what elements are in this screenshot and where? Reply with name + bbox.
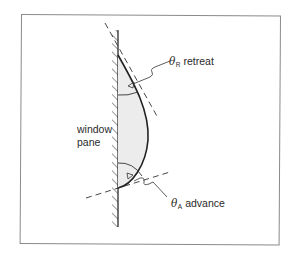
advance-text: advance: [185, 197, 225, 209]
retreat-text: retreat: [184, 55, 214, 67]
theta-retreat-label: θRretreat: [169, 56, 214, 67]
advance-subscript: A: [178, 203, 182, 210]
window-label-line1: window: [77, 124, 112, 135]
retreat-leader-line: [133, 61, 170, 84]
retreat-subscript: R: [176, 61, 181, 68]
theta-advance-label: θAadvance: [171, 198, 225, 209]
water-droplet: [118, 55, 148, 188]
window-label-line2: pane: [77, 137, 112, 148]
window-pane-label: window pane: [77, 124, 112, 147]
theta-symbol: θ: [169, 55, 175, 67]
window-pane-wall: [112, 30, 118, 227]
contact-angle-diagram: [0, 0, 297, 261]
advance-leader-line: [134, 178, 167, 197]
theta-symbol: θ: [171, 197, 177, 209]
